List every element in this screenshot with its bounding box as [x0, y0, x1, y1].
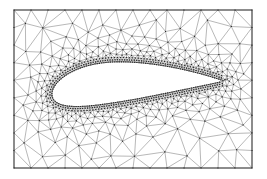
airfoil-mesh-figure: [0, 0, 267, 179]
mesh-canvas: [0, 0, 267, 179]
